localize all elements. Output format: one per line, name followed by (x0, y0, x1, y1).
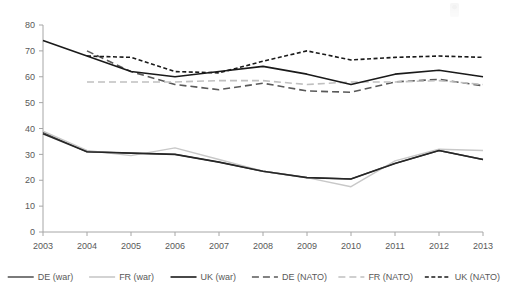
legend-label: FR (war) (119, 272, 154, 282)
x-tick-label: 2007 (209, 241, 229, 251)
y-tick-label: 10 (25, 201, 35, 211)
x-tick-label: 2003 (33, 241, 53, 251)
x-tick-label: 2006 (165, 241, 185, 251)
series-line-fr_war (43, 131, 483, 187)
series-line-uk_war (43, 134, 483, 179)
chart-legend: DE (war)FR (war)UK (war)DE (NATO)FR (NAT… (8, 272, 500, 282)
legend-label: FR (NATO) (368, 272, 413, 282)
legend-item[interactable]: UK (NATO) (425, 272, 500, 282)
watermark-artifact (450, 3, 459, 17)
y-tick-label: 70 (25, 46, 35, 56)
y-tick-label: 30 (25, 150, 35, 160)
x-tick-label: 2011 (385, 241, 404, 251)
y-tick-label: 20 (25, 175, 35, 185)
legend-label: DE (NATO) (282, 272, 327, 282)
legend-item[interactable]: DE (war) (8, 272, 74, 282)
y-tick-label: 60 (25, 72, 35, 82)
legend-item[interactable]: DE (NATO) (252, 272, 327, 282)
x-tick-label: 2005 (121, 241, 141, 251)
legend-label: UK (war) (201, 272, 237, 282)
series-lines (43, 41, 483, 187)
y-tick-label: 40 (25, 124, 35, 134)
x-tick-label: 2009 (297, 241, 317, 251)
x-tick-label: 2012 (429, 241, 449, 251)
legend-item[interactable]: FR (war) (89, 272, 154, 282)
legend-item[interactable]: FR (NATO) (338, 272, 413, 282)
x-axis: 2003200420052006200720082009201020112012… (33, 232, 493, 251)
legend-label: UK (NATO) (455, 272, 500, 282)
line-chart: 01020304050607080 2003200420052006200720… (0, 0, 508, 291)
x-tick-label: 2010 (341, 241, 361, 251)
series-line-uk_war_upper (43, 41, 483, 85)
x-tick-label: 2013 (473, 241, 493, 251)
x-tick-label: 2004 (77, 241, 97, 251)
chart-canvas: 01020304050607080 2003200420052006200720… (0, 0, 508, 291)
y-axis: 01020304050607080 (25, 20, 43, 237)
y-tick-label: 80 (25, 20, 35, 30)
legend-item[interactable]: UK (war) (171, 272, 237, 282)
series-line-fr_nato (87, 81, 483, 85)
y-tick-label: 50 (25, 98, 35, 108)
legend-label: DE (war) (38, 272, 74, 282)
y-tick-label: 0 (30, 227, 35, 237)
x-tick-label: 2008 (253, 241, 273, 251)
